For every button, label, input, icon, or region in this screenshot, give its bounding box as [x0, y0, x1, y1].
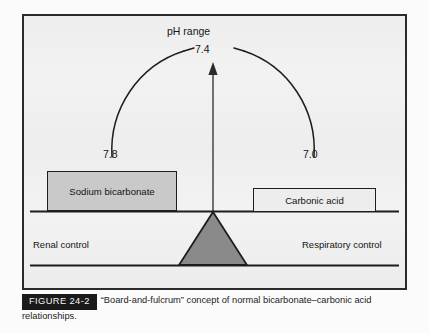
- pan-carbonic-acid: Carbonic acid: [253, 188, 376, 212]
- ph-value-top: 7.4: [195, 44, 210, 55]
- figure-number-tag: FIGURE 24-2: [22, 294, 97, 310]
- label-renal-control: Renal control: [33, 240, 89, 250]
- ph-value-right: 7.0: [303, 149, 318, 160]
- fulcrum-triangle: [179, 212, 247, 265]
- pan-left-label: Sodium bicarbonate: [69, 186, 154, 197]
- label-respiratory-control: Respiratory control: [302, 240, 382, 250]
- page-title: pH range: [167, 26, 210, 37]
- figure-page: pH range 7.4 7.8 7.0 Sodium bicarbonate …: [0, 0, 429, 333]
- pan-sodium-bicarbonate: Sodium bicarbonate: [47, 171, 177, 211]
- ph-value-left: 7.8: [103, 149, 118, 160]
- pan-right-label: Carbonic acid: [285, 195, 344, 206]
- pointer-arrow: [208, 62, 217, 212]
- figure-caption: FIGURE 24-2“Board-and-fulcrum” concept o…: [22, 294, 412, 322]
